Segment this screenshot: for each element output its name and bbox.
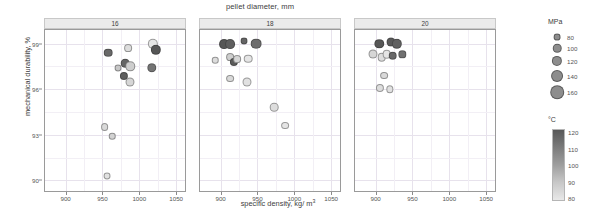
size-legend-entry: 160 (548, 84, 608, 101)
data-point-bubble (104, 48, 113, 57)
data-point-bubble (124, 44, 132, 52)
data-point-bubble (147, 63, 156, 72)
y-tick-label: 93 (32, 131, 39, 138)
size-legend-mpa: MPa80100120140160 (548, 18, 608, 25)
x-axis-ticks: 90095010001050 (354, 192, 496, 206)
color-legend-tick-label: 80 (568, 195, 575, 202)
x-tick-label: 900 (215, 195, 225, 202)
gridline-vertical-minor (239, 30, 240, 191)
gridline-vertical-minor (84, 30, 85, 191)
color-legend-tick-label: 90 (568, 178, 575, 185)
gridline-vertical (331, 30, 332, 191)
size-legend-entry: 120 (548, 55, 608, 68)
size-legend-entry: 80 (548, 32, 608, 42)
color-legend-tick-label: 120 (568, 129, 578, 136)
size-legend-swatch (551, 70, 563, 82)
size-legend-entry: 140 (548, 68, 608, 83)
size-legend-swatch (552, 56, 562, 66)
gridline-vertical (139, 30, 140, 191)
gridline-horizontal-minor (355, 112, 495, 113)
y-tick-mark (39, 134, 42, 135)
gridline-horizontal (45, 89, 185, 90)
data-point-bubble (282, 122, 290, 130)
facet-panel: 1690095010001050 (44, 18, 186, 192)
data-point-bubble (109, 133, 116, 140)
color-legend-tick-label: 110 (568, 145, 578, 152)
data-point-bubble (226, 75, 234, 83)
data-point-bubble (380, 72, 388, 80)
gridline-horizontal-minor (200, 66, 340, 67)
x-axis-ticks: 90095010001050 (44, 192, 186, 206)
gridline-horizontal-minor (355, 66, 495, 67)
color-legend-tick-label: 100 (568, 162, 578, 169)
data-point-bubble (270, 103, 279, 112)
data-point-bubble (386, 86, 393, 93)
gridline-vertical (412, 30, 413, 191)
x-tick-label: 1000 (132, 195, 146, 202)
facet-strip-header: 18 (199, 18, 341, 29)
gridline-horizontal-minor (45, 158, 185, 159)
gridline-horizontal (200, 135, 340, 136)
gridline-vertical (294, 30, 295, 191)
data-point-bubble (233, 55, 241, 63)
gridline-vertical (486, 30, 487, 191)
x-tick-label: 1050 (169, 195, 183, 202)
x-axis-ticks: 90095010001050 (199, 192, 341, 206)
x-tick-label: 1050 (479, 195, 493, 202)
gridline-vertical-minor (158, 30, 159, 191)
facet-strip-label: 16 (45, 20, 185, 27)
data-point-bubble (150, 45, 160, 55)
size-legend-label: 160 (567, 89, 577, 96)
gridline-vertical (257, 30, 258, 191)
data-point-bubble (244, 55, 253, 64)
x-tick-label: 950 (252, 195, 262, 202)
size-legend-label: 100 (567, 45, 577, 52)
data-point-bubble (375, 39, 384, 48)
gridline-horizontal (200, 180, 340, 181)
data-point-bubble (126, 62, 135, 71)
gridline-horizontal (355, 135, 495, 136)
y-tick-label: 90 (32, 177, 39, 184)
gridline-horizontal-minor (200, 158, 340, 159)
gridline-horizontal (200, 89, 340, 90)
gridline-vertical-minor (313, 30, 314, 191)
x-tick-label: 950 (407, 195, 417, 202)
gridline-vertical (221, 30, 222, 191)
facet-panel: 2090095010001050 (354, 18, 496, 192)
size-legend-label: 80 (567, 33, 574, 40)
size-legend-swatch (550, 85, 564, 99)
gridline-horizontal-minor (355, 158, 495, 159)
plot-area (44, 29, 186, 192)
size-legend-swatch (554, 33, 561, 40)
data-point-bubble (103, 172, 110, 179)
data-point-bubble (125, 77, 134, 86)
gridline-horizontal (45, 180, 185, 181)
gridline-horizontal (355, 180, 495, 181)
data-point-bubble (398, 51, 405, 58)
plot-area (199, 29, 341, 192)
facet-strip-label: 18 (200, 20, 340, 27)
chart-supertitle: pellet diameter, mm (0, 2, 520, 11)
gridline-horizontal-minor (200, 112, 340, 113)
data-point-bubble (241, 37, 248, 44)
facet-strip-header: 20 (354, 18, 496, 29)
x-tick-label: 1050 (324, 195, 338, 202)
data-point-bubble (114, 65, 121, 72)
x-tick-label: 950 (97, 195, 107, 202)
gridline-vertical (176, 30, 177, 191)
y-tick-mark (39, 43, 42, 44)
data-point-bubble (225, 39, 235, 49)
size-legend-entry: 100 (548, 42, 608, 54)
x-tick-label: 900 (60, 195, 70, 202)
size-legend-label: 140 (567, 72, 577, 79)
x-tick-label: 900 (370, 195, 380, 202)
gridline-vertical-minor (431, 30, 432, 191)
facet-strip-label: 20 (355, 20, 495, 27)
plot-area (354, 29, 496, 192)
data-point-bubble (101, 123, 109, 131)
size-legend-title: MPa (548, 18, 608, 25)
data-point-bubble (212, 57, 219, 64)
gridline-vertical (66, 30, 67, 191)
y-tick-mark (39, 180, 42, 181)
size-legend-label: 120 (567, 58, 577, 65)
